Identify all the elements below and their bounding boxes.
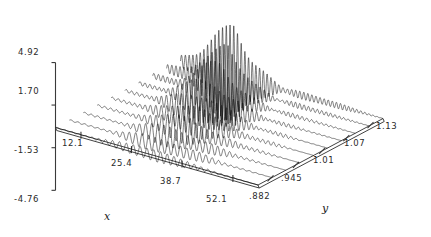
x-axis-front-rail [56,128,259,186]
x-axis-title: x [104,211,110,222]
y-tick-label: .882 [249,192,270,201]
x-tick-label: 12.1 [62,139,83,148]
z-tick-label: -4.76 [14,195,39,204]
x-tick-label: 25.4 [111,159,132,168]
y-axis-title: y [322,203,328,214]
waterfall-plot-figure: 4.92 1.70 -1.53 -4.76 12.1 25.4 38.7 52.… [0,0,431,237]
z-tick-label: 4.92 [18,48,39,57]
x-axis-back-rail [57,131,260,189]
z-tick-label: -1.53 [14,146,39,155]
x-tick-label: 52.1 [206,195,227,204]
x-tick-label: 38.7 [160,177,181,186]
y-tick-label: 1.13 [376,122,397,131]
y-tick-label: 1.01 [313,156,334,165]
z-tick-label: 1.70 [18,87,39,96]
y-tick-label: .945 [281,174,302,183]
y-tick-label: 1.07 [344,139,365,148]
